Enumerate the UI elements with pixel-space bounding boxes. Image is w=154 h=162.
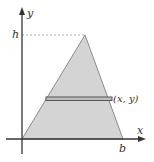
triangle-region (22, 35, 123, 139)
horizontal-strip (46, 97, 112, 101)
x-axis-label: x (137, 124, 144, 137)
triangle-diagram: y x h b (x, y) (0, 0, 154, 162)
point-label: (x, y) (113, 93, 139, 104)
base-label: b (119, 142, 126, 155)
y-axis-label: y (26, 7, 34, 20)
height-label: h (12, 28, 19, 41)
y-axis-arrow-icon (19, 7, 25, 15)
